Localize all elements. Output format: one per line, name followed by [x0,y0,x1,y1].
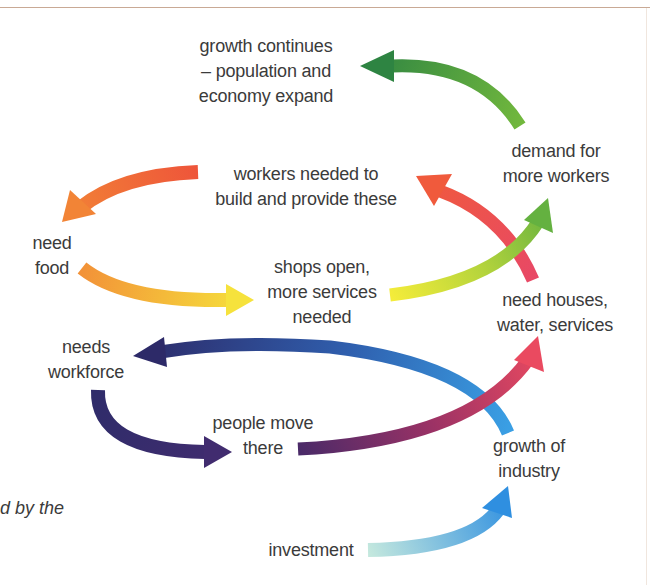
node-line: more workers [486,164,626,189]
node-line: more services [252,280,392,305]
arrow-food-to-shops [82,268,254,316]
node-line: needs [36,335,136,360]
node-growth-continues: growth continues – population and econom… [186,34,346,109]
node-line: demand for [486,139,626,164]
node-shops-open: shops open, more services needed [252,255,392,330]
node-line: economy expand [186,84,346,109]
node-demand-for-more-workers: demand for more workers [486,139,626,189]
node-line: growth of [474,434,584,459]
node-investment: investment [256,538,366,563]
node-line: needed [252,305,392,330]
node-needs-workforce: needs workforce [36,335,136,385]
arrow-workers-to-food [62,172,198,222]
node-line: – population and [186,59,346,84]
arrow-demand-to-growth-continues [360,50,520,126]
node-line: water, services [482,313,628,338]
node-line: people move [198,411,328,436]
node-line: need [22,231,82,256]
node-need-food: need food [22,231,82,281]
arrow-investment-to-industry [368,486,512,550]
node-line: investment [256,538,366,563]
node-line: there [198,436,328,461]
node-line: shops open, [252,255,392,280]
node-line: need houses, [482,288,628,313]
node-line: workforce [36,360,136,385]
node-people-move-there: people move there [198,411,328,461]
node-workers-needed: workers needed to build and provide thes… [196,162,416,212]
node-line: workers needed to [196,162,416,187]
node-growth-of-industry: growth of industry [474,434,584,484]
node-line: build and provide these [196,187,416,212]
node-line: industry [474,459,584,484]
caption-fragment: d by the [0,498,64,519]
arrow-houses-to-workers-needed [416,174,533,280]
node-need-houses: need houses, water, services [482,288,628,338]
node-line: food [22,256,82,281]
node-line: growth continues [186,34,346,59]
